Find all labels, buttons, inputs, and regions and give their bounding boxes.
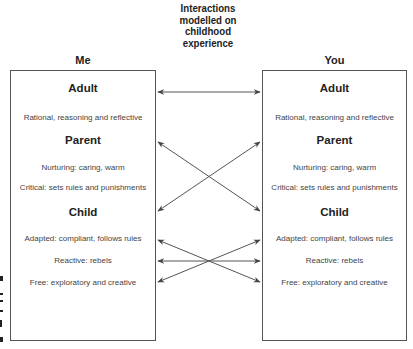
edge-mark <box>0 276 3 281</box>
edge-mark <box>0 310 3 312</box>
interaction-arrows <box>0 0 413 349</box>
edge-mark <box>0 300 3 302</box>
edge-mark <box>0 337 3 342</box>
edge-mark <box>0 293 3 295</box>
edge-mark <box>0 320 2 327</box>
